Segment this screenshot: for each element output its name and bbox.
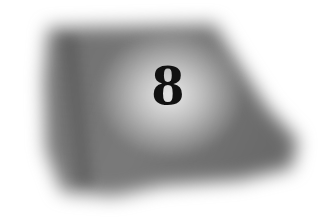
numeral-eight: 8 (151, 60, 180, 112)
image-canvas: 8 (0, 0, 328, 224)
